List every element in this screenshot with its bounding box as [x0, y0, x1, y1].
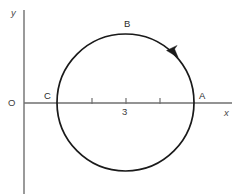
math-figure: y x O A B C 3 [0, 0, 242, 194]
y-axis-label: y [11, 8, 16, 18]
point-label-b: B [124, 19, 130, 29]
origin-label: O [8, 98, 15, 108]
point-label-c: C [44, 91, 51, 101]
figure-canvas [0, 0, 242, 194]
direction-arrow-icon [167, 45, 179, 57]
x-axis-label: x [224, 108, 229, 118]
point-label-a: A [199, 91, 205, 101]
x-axis-tick-label-3: 3 [122, 107, 127, 117]
